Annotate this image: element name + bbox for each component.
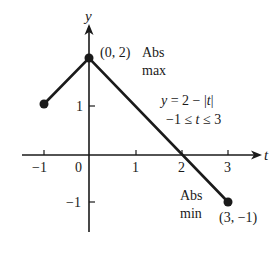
max-point-label: (0, 2): [100, 45, 131, 61]
y-axis-label: y: [83, 8, 92, 24]
x-tick-label-1: 1: [132, 160, 139, 175]
abs-max-label-line2: max: [142, 63, 166, 78]
min-point-label: (3, −1): [219, 210, 258, 226]
equation-line2: −1 ≤ t ≤ 3: [166, 112, 221, 127]
t-axis-label: t: [264, 147, 269, 163]
origin-label: 0: [75, 160, 82, 175]
equation-line1: y = 2 − |t|: [159, 93, 214, 108]
endpoint-min: [224, 198, 233, 207]
graph: y t −1 0 1 2 3 1 −1 (0, 2) Abs max y = 2…: [0, 0, 280, 255]
abs-min-label-line1: Abs: [180, 188, 203, 203]
y-tick-label-1: 1: [76, 99, 83, 114]
abs-max-label-line1: Abs: [142, 45, 165, 60]
function-line: [44, 58, 228, 202]
endpoint-left: [40, 100, 49, 109]
x-tick-label-2: 2: [178, 160, 185, 175]
x-tick-label-3: 3: [224, 160, 231, 175]
y-ticks: [89, 106, 95, 202]
y-tick-label-neg1: −1: [66, 195, 81, 210]
x-tick-label-neg1: −1: [32, 160, 47, 175]
endpoint-max: [85, 54, 94, 63]
abs-min-label-line2: min: [180, 206, 202, 221]
